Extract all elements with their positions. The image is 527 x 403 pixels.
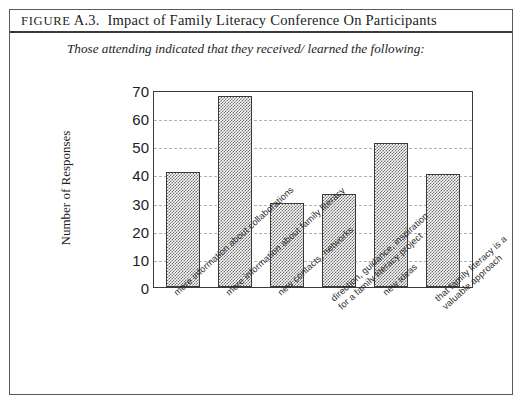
figure-subtitle: Those attending indicated that they rece… (67, 41, 425, 57)
y-tick-label: 70 (132, 84, 149, 99)
page-title: FIGURE A.3. Impact of Family Literacy Co… (21, 12, 437, 29)
y-tick-label: 50 (132, 140, 149, 155)
figure-label-prefix: FIGURE (21, 14, 71, 28)
figure-frame: FIGURE A.3. Impact of Family Literacy Co… (9, 9, 513, 395)
y-tick-label: 10 (132, 252, 149, 267)
y-tick-label: 30 (132, 196, 149, 211)
x-axis-tick-labels: more information about collaborationsmor… (10, 288, 512, 403)
y-tick-label: 60 (132, 112, 149, 127)
bar-chart: Number of Responses 010203040506070 more… (10, 56, 512, 394)
figure-title-text: Impact of Family Literacy Conference On … (108, 12, 437, 28)
figure-title-band: FIGURE A.3. Impact of Family Literacy Co… (10, 10, 512, 33)
y-axis-title: Number of Responses (58, 108, 74, 268)
y-axis-title-label: Number of Responses (58, 131, 74, 246)
y-axis-tick-labels: 010203040506070 (115, 91, 149, 288)
figure-label-number: A.3. (74, 12, 100, 28)
bar-slot (417, 92, 469, 287)
bar-slot (157, 92, 209, 287)
y-tick-label: 20 (132, 224, 149, 239)
y-tick-label: 40 (132, 168, 149, 183)
